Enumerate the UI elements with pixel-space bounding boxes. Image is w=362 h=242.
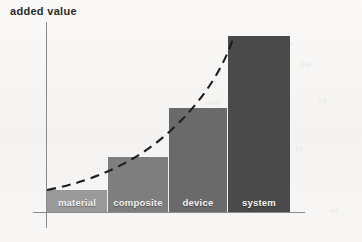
bar-system: system — [228, 36, 290, 212]
bar-label-composite: composite — [108, 197, 168, 208]
bar-material: material — [47, 190, 108, 212]
bar-label-material: material — [47, 197, 107, 208]
bar-device: device — [169, 108, 228, 212]
plot-area: added value materialcompositedevicesyste… — [0, 0, 362, 242]
x-axis-line — [33, 212, 305, 213]
bar-label-system: system — [228, 197, 290, 208]
bar-composite: composite — [108, 157, 169, 212]
chart-figure: theonandintoofan added value materialcom… — [0, 0, 362, 242]
y-axis-title: added value — [10, 5, 77, 17]
bar-label-device: device — [169, 197, 227, 208]
